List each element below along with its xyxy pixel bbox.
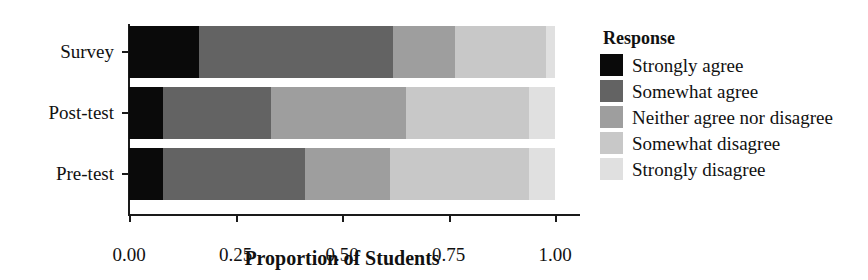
bar-segment	[129, 148, 163, 200]
y-tick-mark	[122, 173, 129, 175]
legend-swatch-icon	[600, 80, 623, 102]
legend-swatch-icon	[600, 158, 623, 180]
y-tick-label: Pre-test	[0, 164, 114, 184]
bar-row	[129, 26, 555, 78]
legend-item-label: Somewhat disagree	[632, 133, 780, 154]
x-tick-mark	[129, 216, 131, 222]
legend-item: Strongly agree	[600, 52, 862, 78]
legend-item-label: Strongly agree	[632, 55, 743, 76]
stacked-bar-chart-figure: SurveyPost-testPre-test 0.000.250.500.75…	[0, 0, 868, 280]
y-tick-mark	[122, 112, 129, 114]
legend-item: Somewhat agree	[600, 78, 862, 104]
bar-segment	[163, 148, 305, 200]
bar-segment	[406, 87, 529, 139]
bar-segment	[271, 87, 406, 139]
bar-row	[129, 87, 555, 139]
legend-swatch-icon	[600, 132, 623, 154]
legend-item-label: Somewhat agree	[632, 81, 758, 102]
legend-item: Strongly disagree	[600, 156, 862, 182]
x-tick-mark	[342, 216, 344, 222]
bar-segment	[199, 26, 393, 78]
bar-segment	[129, 26, 199, 78]
x-tick-mark	[555, 216, 557, 222]
legend-items: Strongly agreeSomewhat agreeNeither agre…	[600, 52, 862, 182]
bar-segment	[546, 26, 555, 78]
bar-segment	[305, 148, 390, 200]
bar-segment	[529, 87, 555, 139]
x-tick-mark	[449, 216, 451, 222]
legend-item: Somewhat disagree	[600, 130, 862, 156]
legend: Response Strongly agreeSomewhat agreeNei…	[600, 28, 862, 182]
y-tick-mark	[122, 51, 129, 53]
y-tick-label: Post-test	[0, 103, 114, 123]
legend-item: Neither agree nor disagree	[600, 104, 862, 130]
legend-title: Response	[603, 28, 862, 48]
bar-segment	[455, 26, 546, 78]
plot-area: SurveyPost-testPre-test 0.000.250.500.75…	[129, 26, 555, 212]
bar-segment	[390, 148, 529, 200]
bar-segment	[529, 148, 555, 200]
y-tick-label: Survey	[0, 42, 114, 62]
bar-row	[129, 148, 555, 200]
bar-segment	[163, 87, 271, 139]
x-axis-line	[128, 214, 580, 216]
legend-item-label: Strongly disagree	[632, 159, 766, 180]
x-tick-mark	[236, 216, 238, 222]
x-axis-title: Proportion of Students	[129, 247, 555, 269]
legend-swatch-icon	[600, 54, 623, 76]
legend-item-label: Neither agree nor disagree	[632, 107, 833, 128]
bar-segment	[129, 87, 163, 139]
legend-swatch-icon	[600, 106, 623, 128]
bar-segment	[393, 26, 455, 78]
